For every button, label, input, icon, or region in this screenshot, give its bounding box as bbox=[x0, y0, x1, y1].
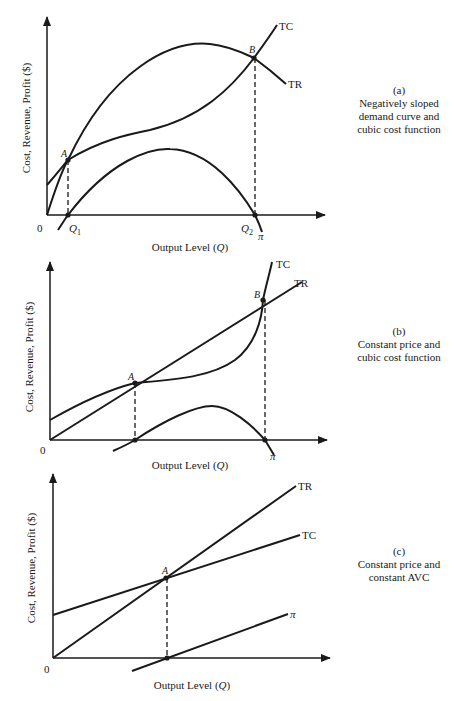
caption-a-line: Negatively sloped bbox=[344, 97, 454, 110]
caption-b-line: cubic cost function bbox=[344, 351, 454, 364]
point-a-zero bbox=[132, 437, 137, 442]
point-q2 bbox=[252, 212, 257, 217]
label-tc: TC bbox=[279, 20, 293, 32]
panel-c: TR TC π A 0 Output Level (Q) Cost, Reven… bbox=[25, 474, 330, 692]
caption-a-line: cubic cost function bbox=[344, 123, 454, 136]
caption-b: (b) Constant price and cubic cost functi… bbox=[344, 325, 454, 364]
caption-a-line: demand curve and bbox=[344, 110, 454, 123]
tr-curve bbox=[47, 44, 286, 215]
label-tc: TC bbox=[276, 258, 290, 270]
panel-a: TC TR A B π 0 Q1 Q2 Output Level (Q) Cos… bbox=[20, 17, 325, 254]
profit-curve bbox=[58, 149, 262, 232]
tc-curve bbox=[50, 262, 272, 420]
x-axis-label: Output Level (Q) bbox=[152, 459, 229, 472]
tc-curve bbox=[47, 25, 277, 185]
label-q2: Q2 bbox=[241, 222, 253, 237]
label-zero: 0 bbox=[44, 663, 50, 675]
label-tc: TC bbox=[302, 529, 316, 541]
point-a-zero bbox=[164, 655, 169, 660]
label-tr: TR bbox=[288, 78, 303, 90]
caption-a: (a) Negatively sloped demand curve and c… bbox=[344, 84, 454, 136]
label-b: B bbox=[249, 44, 255, 55]
label-a: A bbox=[161, 565, 169, 576]
caption-b-line: Constant price and bbox=[344, 338, 454, 351]
caption-c: (c) Constant price and constant AVC bbox=[344, 545, 454, 584]
label-a: A bbox=[127, 371, 135, 382]
y-axis-label: Cost, Revenue, Profit ($) bbox=[23, 302, 36, 413]
label-q1: Q1 bbox=[69, 222, 81, 237]
profit-curve bbox=[113, 406, 274, 455]
x-axis-label: Output Level (Q) bbox=[152, 241, 229, 254]
caption-a-tag: (a) bbox=[344, 84, 454, 97]
point-b-zero bbox=[262, 437, 267, 442]
caption-b-tag: (b) bbox=[344, 325, 454, 338]
point-b bbox=[251, 55, 256, 60]
label-zero: 0 bbox=[40, 444, 46, 456]
label-tr: TR bbox=[298, 480, 313, 492]
y-axis-label: Cost, Revenue, Profit ($) bbox=[20, 63, 33, 174]
tr-line bbox=[53, 486, 296, 658]
point-q1 bbox=[65, 212, 70, 217]
label-pi: π bbox=[270, 450, 276, 462]
label-pi: π bbox=[290, 608, 296, 620]
point-b bbox=[260, 297, 265, 302]
caption-c-line: constant AVC bbox=[344, 571, 454, 584]
point-a bbox=[163, 575, 168, 580]
tc-line bbox=[53, 535, 300, 615]
panel-b: TC TR A B π 0 Output Level (Q) Cost, Rev… bbox=[23, 258, 327, 472]
x-axis-label: Output Level (Q) bbox=[154, 679, 231, 692]
y-axis-label: Cost, Revenue, Profit ($) bbox=[25, 513, 38, 624]
label-tr: TR bbox=[294, 277, 309, 289]
caption-c-tag: (c) bbox=[344, 545, 454, 558]
label-b: B bbox=[254, 289, 260, 300]
profit-line bbox=[132, 614, 288, 671]
caption-c-line: Constant price and bbox=[344, 558, 454, 571]
label-zero: 0 bbox=[37, 222, 43, 234]
label-a: A bbox=[60, 148, 68, 159]
label-pi: π bbox=[258, 230, 264, 242]
